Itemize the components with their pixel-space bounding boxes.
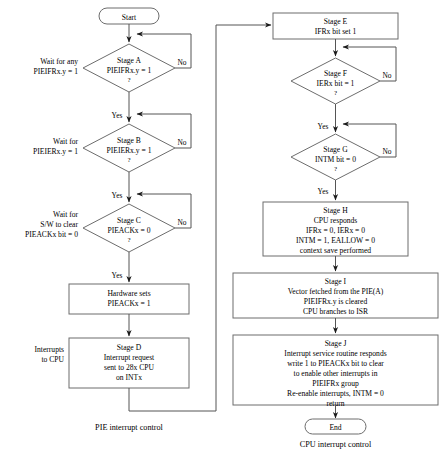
node-stage-h-line-2: IFRx = 0, IERx = 0: [306, 226, 365, 235]
node-stage-i-line-0: Stage I: [325, 277, 347, 286]
node-stage-a-question: ?: [127, 76, 130, 84]
side-label-interrupts-to-cpu: Interrupts to CPU: [34, 345, 64, 364]
node-stage-d-line-0: Stage D: [117, 343, 142, 352]
node-stage-a-line-1: PIEIFRx.y = 1: [107, 66, 152, 75]
node-stage-h-line-0: Stage H: [323, 206, 348, 215]
node-stage-d-line-3: on INTx: [116, 373, 142, 382]
edge-stage-g-yes-label: Yes: [318, 187, 329, 196]
node-stage-i-line-2: PIEIFRx.y is cleared: [304, 297, 368, 306]
side-label-interrupts-to-cpu-line-0: Interrupts: [34, 345, 64, 354]
edge-stage-a-yes-label: Yes: [112, 111, 123, 120]
side-label-interrupts-to-cpu-line-1: to CPU: [41, 355, 64, 364]
caption-pie-interrupt-control: PIE interrupt control: [95, 423, 163, 432]
side-label-wait-ier-line-0: Wait for: [53, 137, 78, 146]
node-stage-h-line-4: context save performed: [300, 246, 371, 255]
node-stage-i-line-3: CPU branches to ISR: [303, 307, 369, 316]
node-stage-a-line-0: Stage A: [117, 56, 141, 65]
node-stage-j-line-4: PIEIFRx group: [312, 379, 359, 388]
node-stage-c-line-1: PIEACKx = 0: [107, 226, 150, 235]
node-stage-b-line-0: Stage B: [117, 136, 141, 145]
node-stage-j-line-3: to enable other interrupts in: [294, 369, 378, 378]
node-stage-g-line-0: Stage G: [323, 145, 348, 154]
edge-stage-g-no-label: No: [382, 147, 391, 156]
side-label-wait-ier: Wait for PIEIERx.y = 1: [33, 137, 78, 156]
edge-stage-b-no-label: No: [177, 138, 186, 147]
node-stage-h: Stage H CPU responds IFRx = 0, IERx = 0 …: [263, 202, 408, 256]
node-stage-e-line-0: Stage E: [324, 17, 348, 26]
node-stage-g-line-1: INTM bit = 0: [315, 155, 356, 164]
node-stage-h-line-3: INTM = 1, EALLOW = 0: [296, 236, 375, 245]
node-hardware-sets-line-0: Hardware sets: [107, 289, 150, 298]
node-end: End: [305, 419, 366, 434]
node-stage-i: Stage I Vector fetched from the PIE(A) P…: [233, 273, 438, 318]
node-stage-c-question: ?: [127, 236, 130, 244]
node-end-label: End: [329, 423, 341, 432]
edge-stage-b-yes-label: Yes: [112, 191, 123, 200]
edge-stage-c-no-label: No: [177, 218, 186, 227]
node-stage-j-line-0: Stage J: [325, 339, 347, 348]
node-stage-g-question: ?: [334, 165, 337, 173]
side-label-wait-sw-clear: Wait for S/W to clear PIEACKx bit = 0: [25, 210, 78, 239]
node-hardware-sets: Hardware sets PIEACKx = 1: [69, 284, 189, 314]
edge-stage-a-no-label: No: [177, 58, 186, 67]
edge-stage-f-no-label: No: [382, 71, 391, 80]
side-label-wait-sw-clear-line-0: Wait for: [53, 210, 78, 219]
flowchart-page: Start Stage A PIEIFRx.y = 1 ? Wait for a…: [0, 0, 442, 455]
side-label-wait-any-line-1: PIEIFRx.y = 1: [33, 67, 78, 76]
node-start: Start: [99, 8, 159, 24]
node-stage-f-line-1: IERx bit = 1: [317, 79, 355, 88]
node-stage-e-line-1: IFRx bit set 1: [315, 27, 357, 36]
side-label-wait-sw-clear-line-2: PIEACKx bit = 0: [25, 230, 78, 239]
node-stage-e: Stage E IFRx bit set 1: [273, 13, 398, 39]
node-stage-c-line-0: Stage C: [117, 216, 141, 225]
node-stage-d: Stage D Interrupt request sent to 28x CP…: [69, 338, 189, 388]
side-label-wait-any: Wait for any PIEIFRx.y = 1: [33, 57, 78, 76]
edge-stage-f-yes-label: Yes: [318, 122, 329, 131]
node-stage-j: Stage J Interrupt service routine respon…: [233, 335, 438, 408]
side-label-wait-ier-line-1: PIEIERx.y = 1: [33, 147, 78, 156]
edge-stage-c-yes-label: Yes: [112, 271, 123, 280]
flowchart-canvas: Start Stage A PIEIFRx.y = 1 ? Wait for a…: [0, 0, 442, 455]
node-stage-j-line-5: Re-enable interrupts, INTM = 0: [287, 389, 384, 398]
node-stage-i-line-1: Vector fetched from the PIE(A): [288, 287, 384, 296]
side-label-wait-sw-clear-line-1: S/W to clear: [40, 220, 78, 229]
node-stage-a: Stage A PIEIFRx.y = 1 ?: [83, 44, 175, 92]
node-stage-b: Stage B PIEIERx.y = 1 ?: [83, 124, 175, 172]
node-hardware-sets-line-1: PIEACKx = 1: [107, 299, 150, 308]
node-stage-f-question: ?: [334, 89, 337, 97]
node-stage-g: Stage G INTM bit = 0 ?: [291, 134, 380, 180]
side-label-wait-any-line-0: Wait for any: [40, 57, 78, 66]
caption-cpu-interrupt-control: CPU interrupt control: [300, 440, 372, 449]
node-stage-c: Stage C PIEACKx = 0 ?: [83, 204, 175, 252]
node-stage-j-line-1: Interrupt service routine responds: [284, 349, 386, 358]
node-stage-h-line-1: CPU responds: [314, 216, 358, 225]
node-stage-j-line-2: write 1 to PIEACKx bit to clear: [287, 359, 384, 368]
node-stage-d-line-1: Interrupt request: [104, 353, 155, 362]
node-stage-f-line-0: Stage F: [324, 69, 347, 78]
node-stage-b-line-1: PIEIERx.y = 1: [107, 146, 152, 155]
node-stage-f: Stage F IERx bit = 1 ?: [291, 58, 380, 104]
node-start-label: Start: [122, 13, 137, 22]
node-stage-b-question: ?: [127, 156, 130, 164]
node-stage-d-line-2: sent to 28x CPU: [104, 363, 155, 372]
